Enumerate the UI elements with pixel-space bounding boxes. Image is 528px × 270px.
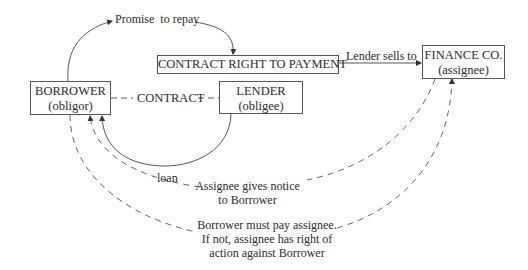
label-assignee-gives-notice: Assignee gives notice to Borrower xyxy=(190,179,305,207)
lender-title: LENDER xyxy=(220,84,302,99)
node-lender: LENDER (obligee) xyxy=(219,81,303,114)
edge-mustpay-right xyxy=(337,79,452,228)
label-borrower-must-pay: Borrower must pay assignee. If not, assi… xyxy=(197,218,337,260)
notice-line-1: Assignee gives notice xyxy=(190,179,305,193)
mustpay-line-1: Borrower must pay assignee. xyxy=(197,218,337,232)
mustpay-line-2: If not, assignee has right of xyxy=(197,232,337,246)
mustpay-line-3: action against Borrower xyxy=(197,246,337,260)
edge-promise-upper xyxy=(68,21,112,81)
node-contract-right-to-payment: CONTRACT RIGHT TO PAYMENT xyxy=(157,55,339,74)
borrower-subtitle: (obligor) xyxy=(31,99,110,114)
notice-line-2: to Borrower xyxy=(190,193,305,207)
edge-promise-lower xyxy=(195,22,233,54)
label-promise-to-repay: Promise to repay xyxy=(115,12,199,26)
node-finance-co: FINANCE CO. (assignee) xyxy=(422,45,505,79)
edge-notice-left xyxy=(90,116,200,187)
edge-notice-right xyxy=(307,79,435,180)
label-loan: loan xyxy=(157,171,178,185)
lender-subtitle: (obligee) xyxy=(220,99,302,114)
finance-co-subtitle: (assignee) xyxy=(423,63,504,78)
finance-co-title: FINANCE CO. xyxy=(423,48,504,63)
contract-right-title: CONTRACT RIGHT TO PAYMENT xyxy=(158,57,338,72)
label-contract: CONTRACT xyxy=(137,91,204,105)
edge-loan xyxy=(102,114,231,166)
node-borrower: BORROWER (obligor) xyxy=(30,81,111,115)
label-lender-sells-to: Lender sells to xyxy=(346,49,417,63)
borrower-title: BORROWER xyxy=(31,84,110,99)
